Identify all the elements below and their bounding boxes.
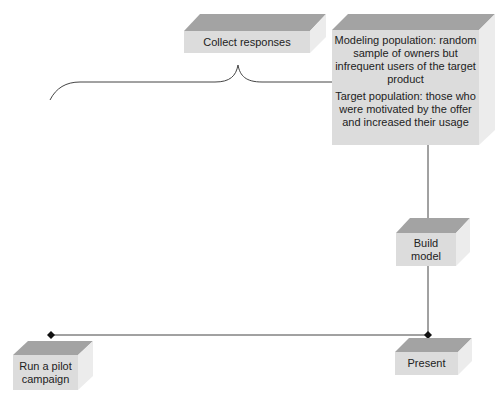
brace-connector [50, 65, 332, 100]
target-population-text: Target population: those who were motiva… [334, 90, 477, 129]
population-label: Modeling population: random sample of ow… [334, 34, 477, 142]
collect-responses-label: Collect responses [184, 31, 310, 53]
diamond-marker-right [424, 331, 432, 339]
pilot-campaign-label: Run a pilot campaign [13, 355, 78, 390]
collect-responses-text: Collect responses [203, 36, 290, 49]
present-text: Present [408, 357, 446, 370]
pilot-campaign-text: Run a pilot campaign [13, 360, 78, 386]
build-model-label: Build model [402, 233, 450, 266]
modeling-population-text: Modeling population: random sample of ow… [334, 34, 477, 86]
present-label: Present [395, 352, 458, 375]
build-model-text: Build model [402, 237, 450, 263]
diamond-marker-left [47, 331, 55, 339]
